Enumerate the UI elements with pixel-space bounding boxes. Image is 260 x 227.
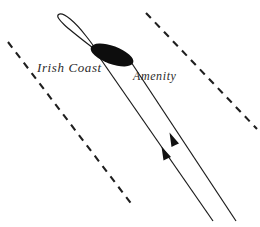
track-line-right [131,62,236,221]
diagram-graphics [0,0,260,227]
label-amenity: Amenity [133,70,177,82]
arrowhead-track-right [170,133,180,148]
diagram-canvas: Irish Coast Amenity [0,0,260,227]
open-loop-track [58,14,95,49]
label-irish-coast: Irish Coast [37,61,102,74]
